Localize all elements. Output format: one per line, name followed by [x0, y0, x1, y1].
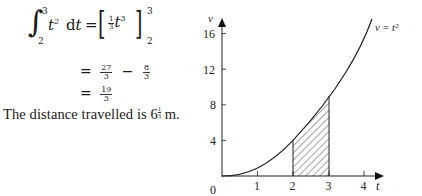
- curve-label: v = t²: [375, 22, 399, 33]
- v-axis-label: v: [208, 12, 213, 24]
- t-axis-label: t: [376, 179, 380, 193]
- origin-label: 0: [210, 183, 216, 196]
- v-tick-12: 12: [203, 63, 215, 77]
- v-tick-4: 4: [210, 134, 216, 148]
- velocity-time-graph: 0 1 2 3 4 t 4 8 12 16 v v = t²: [0, 0, 422, 196]
- v-tick-8: 8: [210, 98, 216, 112]
- t-tick-4: 4: [361, 179, 367, 193]
- t-tick-1: 1: [254, 179, 260, 193]
- shaded-area-region: [293, 96, 329, 176]
- t-tick-2: 2: [290, 179, 296, 193]
- v-tick-16: 16: [203, 27, 215, 41]
- v-axis-ticks: [222, 34, 226, 141]
- t-tick-3: 3: [326, 179, 332, 193]
- v-axis-arrow-icon: [218, 18, 226, 27]
- v-axis: [218, 18, 226, 177]
